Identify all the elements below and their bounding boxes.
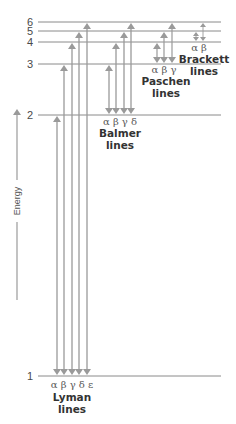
- energy-axis: Energy: [12, 112, 22, 300]
- level-label: 2: [27, 109, 33, 121]
- level-label: 1: [27, 370, 33, 382]
- energy-axis-label: Energy: [12, 186, 22, 215]
- paschen-subtitle: lines: [152, 87, 180, 99]
- lyman-series: α β γ δ ε Lyman lines: [51, 26, 93, 415]
- level-6: 6: [27, 16, 221, 28]
- lyman-subtitle: lines: [58, 403, 86, 415]
- brackett-title: Brackett: [179, 53, 229, 65]
- brackett-subtitle: lines: [190, 65, 218, 77]
- balmer-subtitle: lines: [106, 139, 134, 151]
- brackett-greek-labels: α β: [191, 42, 207, 53]
- brackett-series: α β Brackett lines: [179, 25, 229, 77]
- paschen-greek-labels: α β γ: [152, 64, 177, 75]
- balmer-series: α β γ δ Balmer lines: [99, 26, 142, 151]
- lyman-title: Lyman: [53, 391, 91, 403]
- energy-level-diagram: Energy 6 5 4 3 2 1: [0, 0, 236, 424]
- balmer-title: Balmer: [99, 127, 142, 139]
- lyman-greek-labels: α β γ δ ε: [51, 379, 93, 390]
- level-label: 3: [27, 58, 33, 70]
- level-label: 4: [27, 36, 33, 48]
- balmer-greek-labels: α β γ δ: [103, 116, 137, 127]
- paschen-title: Paschen: [141, 75, 190, 87]
